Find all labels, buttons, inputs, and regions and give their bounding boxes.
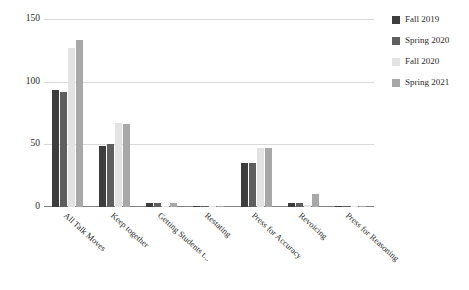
- x-axis-label-cell: Press for Reasoning: [327, 207, 374, 290]
- legend-swatch-icon: [392, 37, 400, 45]
- bar: [312, 194, 319, 207]
- bar: [60, 92, 67, 207]
- legend-label: Fall 2020: [405, 57, 439, 66]
- bar: [68, 48, 75, 207]
- legend-swatch-icon: [392, 79, 400, 87]
- x-axis-label: Revoicing: [298, 211, 330, 241]
- bar-group: [233, 19, 280, 207]
- x-axis-label-cell: Keep together: [91, 207, 138, 290]
- bar-groups: [44, 19, 374, 207]
- plot-area: [44, 19, 374, 207]
- x-axis-labels: All Talk MovesKeep togetherGetting Stude…: [44, 207, 374, 290]
- legend-item[interactable]: Fall 2019: [392, 11, 468, 28]
- bar: [76, 40, 83, 207]
- legend-label: Spring 2021: [405, 78, 449, 87]
- x-axis-label: Press for Reasoning: [345, 211, 401, 263]
- x-axis-label-cell: Getting Students t...: [138, 207, 185, 290]
- bar: [115, 123, 122, 207]
- legend-item[interactable]: Spring 2020: [392, 32, 468, 49]
- legend-swatch-icon: [392, 58, 400, 66]
- bar-group: [91, 19, 138, 207]
- bar-group: [280, 19, 327, 207]
- x-axis-label-cell: Restating: [185, 207, 232, 290]
- y-tick-label: 100: [6, 77, 40, 87]
- y-tick-label: 0: [6, 202, 40, 212]
- bar-group: [327, 19, 374, 207]
- x-axis-label-cell: Press for Accuracy: [233, 207, 280, 290]
- bar: [99, 146, 106, 207]
- legend-item[interactable]: Spring 2021: [392, 74, 468, 91]
- x-axis-label-cell: All Talk Moves: [44, 207, 91, 290]
- y-tick-label: 150: [6, 14, 40, 24]
- bar-group: [138, 19, 185, 207]
- bar: [257, 148, 264, 207]
- bar-group: [185, 19, 232, 207]
- bar: [241, 163, 248, 207]
- y-tick-label: 50: [6, 140, 40, 150]
- bar: [52, 90, 59, 207]
- bar: [123, 124, 130, 207]
- legend-item[interactable]: Fall 2020: [392, 53, 468, 70]
- bar: [107, 144, 114, 207]
- bar: [249, 163, 256, 207]
- legend-swatch-icon: [392, 16, 400, 24]
- x-axis-label-cell: Revoicing: [280, 207, 327, 290]
- grouped-bar-chart: 150 100 50 0 All Talk MovesKeep together…: [0, 0, 469, 290]
- y-axis: 150 100 50 0: [0, 19, 40, 207]
- legend-label: Fall 2019: [405, 15, 439, 24]
- bar: [265, 148, 272, 207]
- legend-label: Spring 2020: [405, 36, 449, 45]
- x-axis-label: Restating: [203, 211, 233, 239]
- bar-group: [44, 19, 91, 207]
- legend: Fall 2019Spring 2020Fall 2020Spring 2021: [392, 11, 468, 95]
